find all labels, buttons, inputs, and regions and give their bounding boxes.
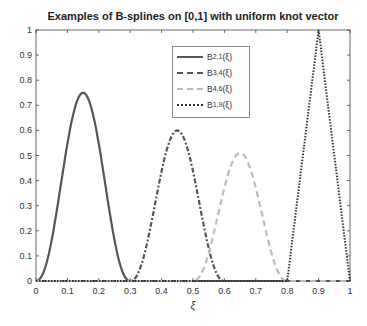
y-tick-label: 0.2 — [19, 226, 32, 236]
y-tick-label: 0 — [27, 276, 32, 286]
y-tick-label: 0.6 — [19, 125, 32, 135]
y-tick-label: 0.1 — [19, 251, 32, 261]
x-tick-label: 0.3 — [124, 286, 137, 296]
legend-item-b34: B3,4(ξ) — [177, 66, 232, 80]
legend-item-b19: B1,9(ξ) — [177, 98, 232, 112]
x-tick-label: 1 — [347, 286, 352, 296]
y-tick-label: 0.5 — [19, 151, 32, 161]
y-tick-label: 0.3 — [19, 201, 32, 211]
x-tick-label: 0.4 — [155, 286, 168, 296]
x-tick-label: 0.9 — [312, 286, 325, 296]
y-tick-label: 0.4 — [19, 176, 32, 186]
x-tick-label: 0 — [33, 286, 38, 296]
legend-item-b21: B2,1(ξ) — [177, 50, 232, 64]
y-tick-label: 0.8 — [19, 75, 32, 85]
series-line-1 — [36, 130, 350, 281]
legend: B2,1(ξ) B3,4(ξ) B4,6(ξ) B1,9(ξ) — [172, 46, 250, 118]
legend-item-b46: B4,6(ξ) — [177, 82, 232, 96]
x-tick-label: 0.1 — [61, 286, 74, 296]
x-axis-label: ξ — [191, 299, 197, 312]
x-tick-label: 0.2 — [93, 286, 106, 296]
x-tick-label: 0.6 — [218, 286, 231, 296]
x-tick-label: 0.7 — [250, 286, 263, 296]
y-tick-label: 0.7 — [19, 100, 32, 110]
series-line-0 — [36, 93, 350, 281]
y-tick-label: 1 — [27, 25, 32, 35]
x-tick-label: 0.5 — [187, 286, 200, 296]
y-tick-label: 0.9 — [19, 50, 32, 60]
x-tick-label: 0.8 — [281, 286, 294, 296]
